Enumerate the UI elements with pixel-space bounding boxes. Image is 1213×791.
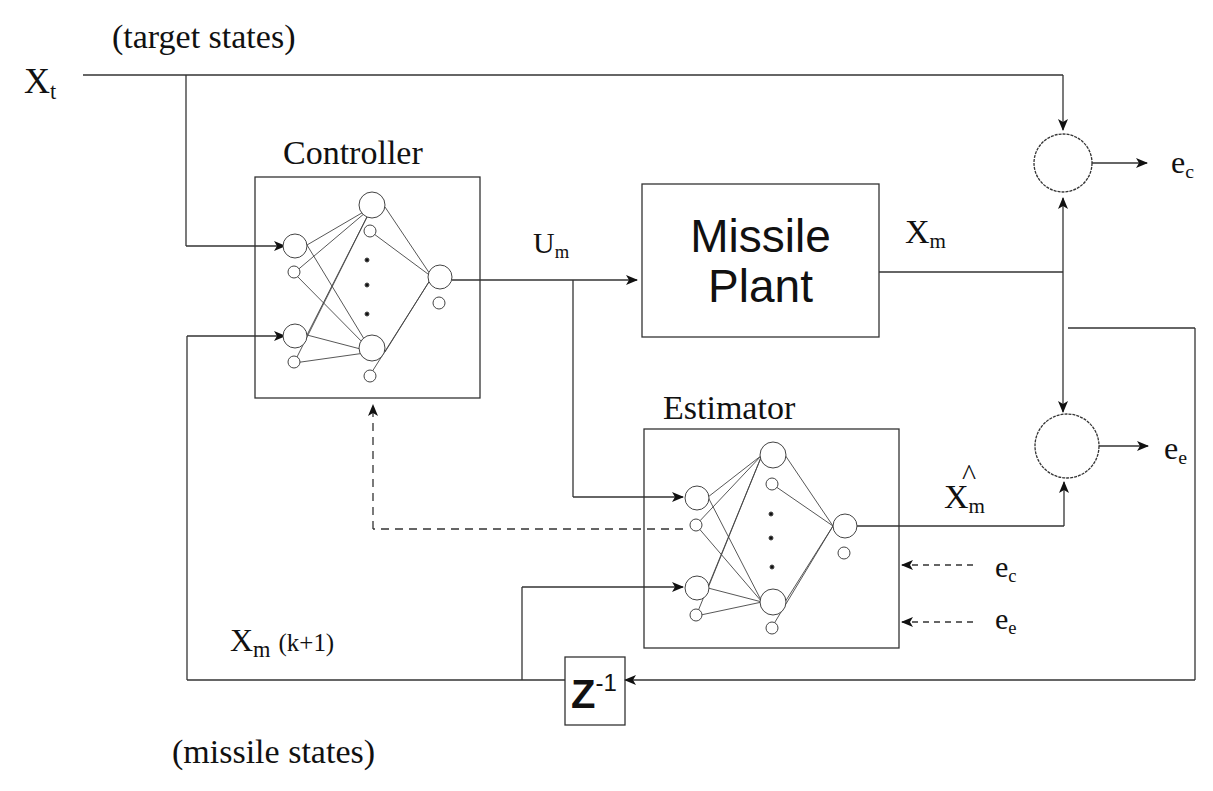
- ee-sub: e: [1178, 446, 1187, 468]
- xm-sub: m: [930, 229, 946, 253]
- delay-sup: -1: [595, 669, 616, 696]
- plant-line1: Missile: [642, 211, 879, 261]
- xmk-sub: m: [253, 637, 270, 662]
- ee-in-main: e: [995, 602, 1008, 635]
- target-states-label: (target states): [112, 20, 295, 54]
- xmk-main: X: [230, 622, 253, 658]
- delay-label: Z-1: [571, 671, 617, 714]
- xm-label: Xm: [905, 215, 946, 252]
- xm-k1-label: Xm (k+1): [230, 624, 334, 661]
- um-main: U: [533, 226, 555, 259]
- ec-sub: c: [1185, 160, 1194, 182]
- estimator-neural-net: [685, 442, 857, 634]
- xhat-main: X: [944, 478, 969, 515]
- ee-input-label: ee: [995, 604, 1017, 637]
- um-sub: m: [555, 241, 569, 262]
- xhat-label: Xm: [944, 480, 985, 517]
- xt-label: Xt: [24, 63, 56, 103]
- xhat-sub: m: [969, 494, 985, 518]
- plant-line2: Plant: [642, 261, 879, 311]
- missile-plant-label: MissilePlant: [642, 211, 879, 311]
- sum-junction-ee: [1035, 414, 1099, 478]
- ec-output-label: ec: [1171, 146, 1194, 182]
- xmk-suffix: (k+1): [279, 629, 335, 656]
- um-label: Um: [533, 228, 569, 261]
- ee-output-label: ee: [1164, 432, 1187, 468]
- um-signal-line: [452, 280, 683, 497]
- estimator-title: Estimator: [663, 391, 795, 425]
- xt-sub: t: [50, 79, 56, 104]
- ec-in-main: e: [995, 550, 1008, 583]
- xt-main: X: [24, 61, 50, 101]
- delay-main: Z: [571, 672, 595, 716]
- ec-in-sub: c: [1008, 565, 1016, 586]
- sum-junction-ec: [1034, 134, 1092, 192]
- controller-title: Controller: [283, 136, 423, 170]
- ec-input-label: ec: [995, 552, 1017, 585]
- missile-states-label: (missile states): [172, 735, 375, 769]
- ec-main: e: [1171, 144, 1185, 180]
- ee-main: e: [1164, 430, 1178, 466]
- xm-main: X: [905, 213, 930, 250]
- controller-neural-net: [283, 192, 452, 382]
- ee-in-sub: e: [1008, 617, 1016, 638]
